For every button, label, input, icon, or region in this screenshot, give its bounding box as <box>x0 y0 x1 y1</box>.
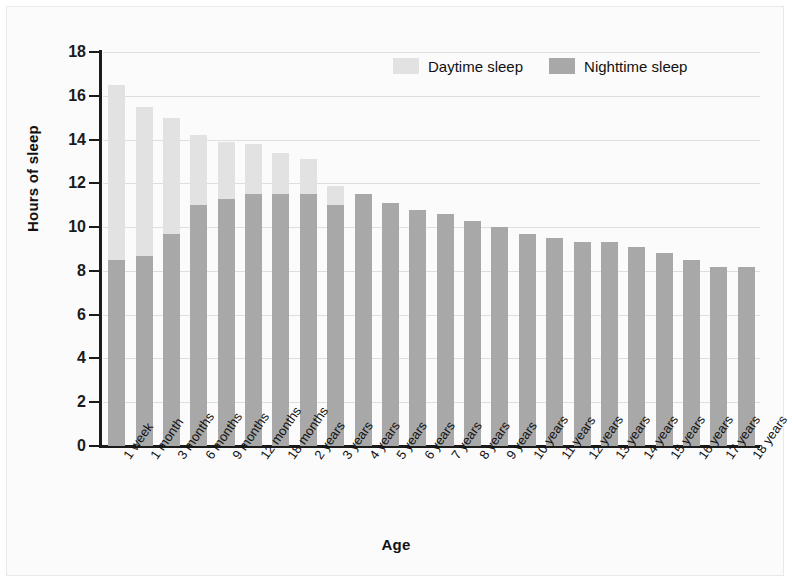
y-axis-title: Hours of sleep <box>24 79 41 279</box>
y-tick-mark <box>89 226 100 228</box>
bar-segment-nighttime <box>409 210 426 446</box>
y-tick-mark <box>89 95 100 97</box>
legend-entry-nighttime-sleep[interactable]: Nighttime sleep <box>549 58 687 74</box>
y-tick-label: 10 <box>42 219 86 235</box>
bar-group[interactable] <box>190 135 207 446</box>
chart-legend: Daytime sleep Nighttime sleep <box>393 58 687 74</box>
y-tick-label: 4 <box>42 350 86 366</box>
y-tick-mark <box>89 182 100 184</box>
bar-group[interactable] <box>491 227 508 446</box>
bar-segment-daytime <box>327 186 344 206</box>
legend-entry-daytime-sleep[interactable]: Daytime sleep <box>393 58 523 74</box>
bar-segment-daytime <box>245 144 262 194</box>
bar-group[interactable] <box>245 144 262 446</box>
x-axis-tick-labels: 1 week1 month3 months6 months9 months12 … <box>103 446 760 536</box>
chart-figure: 024681012141618 1 week1 month3 months6 m… <box>0 0 792 583</box>
y-tick-mark <box>89 314 100 316</box>
bar-segment-daytime <box>218 142 235 199</box>
y-axis-tick-labels: 024681012141618 <box>0 0 86 583</box>
y-axis-line <box>99 50 102 448</box>
bar-segment-daytime <box>190 135 207 205</box>
bar-group[interactable] <box>163 118 180 446</box>
y-tick-mark <box>89 445 100 447</box>
y-tick-label: 18 <box>42 44 86 60</box>
bar-segment-daytime <box>108 85 125 260</box>
y-tick-label: 6 <box>42 307 86 323</box>
bar-group[interactable] <box>218 142 235 446</box>
bar-segment-nighttime <box>464 221 481 446</box>
y-tick-label: 14 <box>42 132 86 148</box>
bar-segment-nighttime <box>136 256 153 446</box>
y-tick-label: 16 <box>42 88 86 104</box>
bar-segment-daytime <box>163 118 180 234</box>
y-tick-mark <box>89 51 100 53</box>
bar-segment-nighttime <box>108 260 125 446</box>
bar-group[interactable] <box>382 203 399 446</box>
bar-segment-nighttime <box>272 194 289 446</box>
bar-segment-nighttime <box>491 227 508 446</box>
legend-label-nighttime-sleep: Nighttime sleep <box>584 59 687 74</box>
bar-group[interactable] <box>355 194 372 446</box>
y-tick-mark <box>89 270 100 272</box>
y-tick-label: 0 <box>42 438 86 454</box>
bar-group[interactable] <box>437 214 454 446</box>
bar-group[interactable] <box>519 234 536 446</box>
plot-area <box>103 52 760 446</box>
bar-group[interactable] <box>108 85 125 446</box>
bar-segment-nighttime <box>437 214 454 446</box>
bar-segment-nighttime <box>163 234 180 446</box>
x-axis-title: Age <box>0 536 792 553</box>
y-tick-mark <box>89 357 100 359</box>
gridline <box>103 96 760 97</box>
legend-label-daytime-sleep: Daytime sleep <box>428 59 523 74</box>
bar-segment-nighttime <box>355 194 372 446</box>
legend-swatch-daytime-sleep <box>393 58 419 74</box>
y-tick-mark <box>89 139 100 141</box>
bar-group[interactable] <box>409 210 426 446</box>
bar-group[interactable] <box>272 153 289 446</box>
bar-segment-nighttime <box>382 203 399 446</box>
bar-segment-daytime <box>300 159 317 194</box>
y-tick-label: 8 <box>42 263 86 279</box>
bar-segment-nighttime <box>245 194 262 446</box>
bar-group[interactable] <box>136 107 153 446</box>
bar-segment-daytime <box>272 153 289 195</box>
bar-group[interactable] <box>300 159 317 446</box>
y-tick-label: 2 <box>42 394 86 410</box>
bar-segment-daytime <box>136 107 153 256</box>
gridline <box>103 52 760 53</box>
bar-group[interactable] <box>464 221 481 446</box>
y-tick-mark <box>89 401 100 403</box>
bar-group[interactable] <box>327 186 344 446</box>
legend-swatch-nighttime-sleep <box>549 58 575 74</box>
y-tick-label: 12 <box>42 175 86 191</box>
bar-segment-nighttime <box>519 234 536 446</box>
